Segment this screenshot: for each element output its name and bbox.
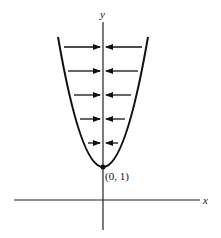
x-axis-label: x [202, 194, 208, 206]
vertex-label: (0, 1) [105, 170, 129, 183]
vertex-point [101, 165, 106, 170]
diagram: x y (0, 1) [0, 0, 221, 238]
y-axis-label: y [99, 8, 105, 20]
